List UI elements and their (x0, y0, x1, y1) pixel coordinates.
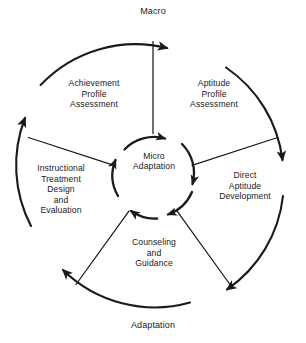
sector-label-instructional-treatment-design-and-evaluation: Instructional Treatment Design and Evalu… (14, 163, 108, 216)
spoke-upper-right (192, 138, 278, 166)
spoke-upper-left (28, 138, 114, 166)
inner-arc-direct-aptitude (168, 192, 192, 215)
center-label-micro-adaptation: Micro Adaptation (113, 151, 195, 172)
sector-label-direct-aptitude-development: Direct Aptitude Development (196, 170, 294, 202)
sector-label-achievement-profile-assessment: Achievement Profile Assessment (48, 78, 140, 110)
inner-ring-arrows (112, 137, 194, 219)
sector-label-aptitude-profile-assessment: Aptitude Profile Assessment (170, 78, 258, 110)
outer-label-adaptation: Adaptation (0, 320, 306, 331)
outer-label-macro: Macro (0, 6, 306, 17)
sector-label-counseling-and-guidance: Counseling and Guidance (108, 237, 200, 269)
inner-arc-achievement (125, 137, 166, 150)
inner-arc-counseling (131, 211, 157, 219)
outer-arc-direct-aptitude (227, 196, 283, 290)
cycle-diagram: Macro Adaptation Achievement Profile Ass… (0, 0, 306, 343)
